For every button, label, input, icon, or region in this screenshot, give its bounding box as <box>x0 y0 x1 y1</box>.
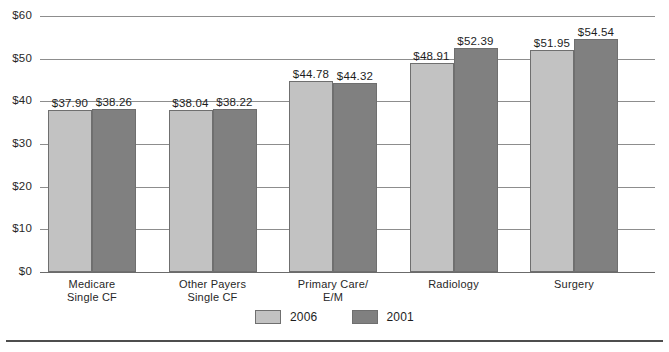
category-label-line-1: Medicare <box>69 278 116 290</box>
legend-swatch-2006 <box>255 310 281 324</box>
category-label-line-1: Surgery <box>554 278 594 290</box>
bar-2001-other-payers-single-cf[interactable] <box>213 109 257 272</box>
bar-2001-radiology[interactable] <box>454 48 498 272</box>
bar-value-label: $38.26 <box>96 96 132 109</box>
bar-value-label: $37.90 <box>52 97 88 110</box>
category-label-line-2: Single CF <box>143 291 283 304</box>
category-label-line-1: Primary Care/ <box>298 278 368 290</box>
bar-value-label: $52.39 <box>457 35 493 48</box>
category-label-other-payers-single-cf: Other PayersSingle CF <box>143 278 283 304</box>
bar-2006-surgery[interactable] <box>530 50 574 272</box>
y-axis-tick-label: $30 <box>12 137 32 149</box>
y-axis-tick-label: $20 <box>12 179 32 191</box>
bar-value-label: $38.04 <box>172 97 208 110</box>
y-axis-tick-label: $10 <box>12 222 32 234</box>
chart-legend: 20062001 <box>0 310 669 324</box>
bar-2006-other-payers-single-cf[interactable] <box>169 110 213 272</box>
category-label-line-2: Single CF <box>22 291 162 304</box>
category-label-radiology: Radiology <box>384 278 524 291</box>
bar-value-label: $54.54 <box>578 26 614 39</box>
bar-value-label: $51.95 <box>534 37 570 50</box>
legend-item-2006[interactable]: 2006 <box>255 310 318 324</box>
category-label-surgery: Surgery <box>504 278 644 291</box>
y-axis-tick-label: $0 <box>19 265 32 277</box>
category-label-line-1: Radiology <box>428 278 479 290</box>
bar-2006-radiology[interactable] <box>410 63 454 272</box>
gridline-0 <box>40 272 655 273</box>
category-label-medicare-single-cf: MedicareSingle CF <box>22 278 162 304</box>
plot-area: $0$10$20$30$40$50$60 $37.90$38.04$44.78$… <box>40 16 655 272</box>
bar-2001-primary-care-e-m[interactable] <box>333 83 377 272</box>
category-label-line-2: E/M <box>263 291 403 304</box>
bar-value-label: $38.22 <box>216 96 252 109</box>
legend-label-2006: 2006 <box>290 310 318 324</box>
gridline-60 <box>40 16 655 17</box>
legend-item-2001[interactable]: 2001 <box>352 310 415 324</box>
legend-label-2001: 2001 <box>387 310 415 324</box>
y-axis-tick-label: $60 <box>12 9 32 21</box>
bar-2001-surgery[interactable] <box>574 39 618 272</box>
bar-2006-primary-care-e-m[interactable] <box>289 81 333 272</box>
y-axis-tick-label: $40 <box>12 94 32 106</box>
bar-2001-medicare-single-cf[interactable] <box>92 109 136 272</box>
bottom-divider <box>6 340 663 342</box>
bar-value-label: $48.91 <box>413 50 449 63</box>
y-axis-tick-label: $50 <box>12 51 32 63</box>
bar-chart: $0$10$20$30$40$50$60 $37.90$38.04$44.78$… <box>0 0 669 352</box>
legend-swatch-2001 <box>352 310 378 324</box>
category-label-line-1: Other Payers <box>179 278 246 290</box>
bar-value-label: $44.32 <box>337 70 373 83</box>
bar-2006-medicare-single-cf[interactable] <box>48 110 92 272</box>
category-label-primary-care-e-m: Primary Care/E/M <box>263 278 403 304</box>
bar-value-label: $44.78 <box>293 68 329 81</box>
